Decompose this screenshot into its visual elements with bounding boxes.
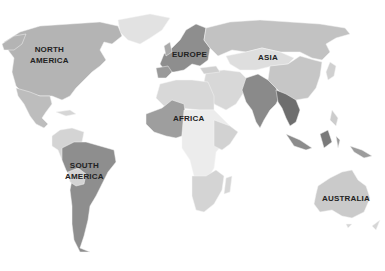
label-north-america-line2: AMERICA [30,55,69,66]
region-north-africa [156,80,214,110]
label-south-america: SOUTH AMERICA [65,160,104,182]
region-madagascar [224,176,232,194]
region-indonesia [286,134,312,150]
region-south-america [62,142,116,252]
label-australia: AUSTRALIA [322,193,370,204]
region-new-zealand [372,220,380,230]
label-north-america-line1: NORTH [30,44,69,55]
world-map-svg [0,0,385,271]
label-north-america: NORTH AMERICA [30,44,69,66]
region-sulawesi [336,136,340,148]
label-europe: EUROPE [172,49,207,60]
region-caribbean [56,110,76,116]
region-new-guinea [350,146,372,158]
region-greenland [118,14,170,44]
label-africa: AFRICA [173,113,204,124]
region-japan [326,62,336,80]
region-borneo [320,130,332,148]
region-tasmania [346,224,352,228]
region-southern-africa [192,170,224,212]
label-asia: ASIA [258,52,278,63]
world-map: NORTH AMERICA EUROPE ASIA AFRICA SOUTH A… [0,0,385,271]
label-south-america-line2: AMERICA [65,171,104,182]
label-south-america-line1: SOUTH [65,160,104,171]
region-east-africa [214,120,238,150]
region-philippines [330,110,338,126]
